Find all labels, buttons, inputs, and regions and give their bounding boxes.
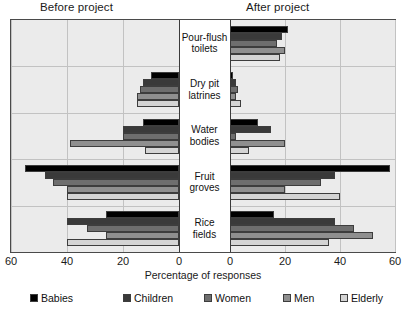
x-tick-label: 60 (389, 255, 401, 267)
category-label-line: bodies (190, 136, 219, 148)
panel-title-after: After project (246, 1, 309, 13)
plot-area: Pour-flushtoiletsDry pitlatrinesWaterbod… (10, 19, 396, 253)
bar-after (230, 26, 288, 33)
bar-after (230, 147, 249, 154)
category-label-line: Dry pit (190, 78, 219, 90)
legend-label: Children (134, 292, 173, 304)
category-label-line: fields (193, 229, 216, 241)
category-label-line: Fruit (195, 171, 215, 183)
legend-item[interactable]: Men (283, 292, 314, 304)
legend-label: Babies (41, 292, 73, 304)
category-label-line: groves (189, 182, 219, 194)
category-label-line: Rice (194, 217, 214, 229)
bar-after (230, 239, 329, 246)
bar-after (230, 47, 285, 54)
zero-axis-right (230, 20, 231, 252)
category-label: Pour-flushtoilets (179, 20, 230, 66)
legend-swatch-icon (123, 294, 131, 302)
legend-swatch-icon (30, 294, 38, 302)
bar-after (230, 193, 340, 200)
bar-after (230, 186, 285, 193)
zero-axis-left (179, 20, 180, 252)
bar-before (151, 72, 179, 79)
x-tick-label: 20 (279, 255, 291, 267)
bar-after (230, 126, 271, 133)
bar-before (143, 119, 179, 126)
bar-after (230, 172, 335, 179)
bar-before (137, 93, 179, 100)
category-label: Fruitgroves (179, 159, 230, 205)
bar-before (145, 147, 179, 154)
category-label-line: latrines (188, 90, 220, 102)
legend-item[interactable]: Elderly (340, 292, 383, 304)
x-tick-label: 40 (334, 255, 346, 267)
gridline-vertical (340, 20, 341, 252)
bar-after (230, 211, 274, 218)
category-label: Waterbodies (179, 113, 230, 159)
legend-label: Men (294, 292, 314, 304)
legend-item[interactable]: Women (204, 292, 251, 304)
bar-before (106, 211, 179, 218)
legend-swatch-icon (340, 294, 348, 302)
x-tick-label: 0 (176, 255, 182, 267)
legend-swatch-icon (204, 294, 212, 302)
bar-after (230, 100, 241, 107)
bar-before (67, 193, 179, 200)
bar-before (143, 79, 179, 86)
x-tick-label: 60 (5, 255, 17, 267)
bar-after (230, 86, 238, 93)
x-axis-title: Percentage of responses (0, 269, 406, 281)
panel-title-before: Before project (40, 1, 113, 13)
legend-item[interactable]: Children (123, 292, 173, 304)
bar-after (230, 232, 373, 239)
legend-label: Elderly (351, 292, 383, 304)
bar-before (123, 133, 179, 140)
bar-before (67, 186, 179, 193)
bar-after (230, 119, 258, 126)
bar-after (230, 140, 285, 147)
bar-before (137, 100, 179, 107)
x-tick-label: 20 (117, 255, 129, 267)
bar-after (230, 33, 282, 40)
x-tick-label: 40 (61, 255, 73, 267)
bar-after (230, 40, 277, 47)
bar-after (230, 218, 335, 225)
gridline-vertical (285, 20, 286, 252)
bar-after (230, 225, 354, 232)
bar-before (106, 232, 179, 239)
legend-swatch-icon (283, 294, 291, 302)
legend-label: Women (215, 292, 251, 304)
x-tick-label: 0 (227, 255, 233, 267)
gridline-vertical (395, 20, 396, 252)
category-label-line: toilets (191, 43, 217, 55)
bar-before (25, 165, 179, 172)
category-label-line: Water (191, 124, 217, 136)
bar-after (230, 54, 280, 61)
chart-container: Before project After project Pour-flusht… (0, 0, 406, 313)
bar-before (123, 126, 179, 133)
bar-after (230, 165, 390, 172)
bar-before (45, 172, 179, 179)
category-label-band: Pour-flushtoiletsDry pitlatrinesWaterbod… (179, 20, 230, 252)
category-label: Ricefields (179, 206, 230, 252)
bar-before (70, 140, 179, 147)
bar-before (67, 239, 179, 246)
gridline-vertical (11, 20, 12, 252)
bar-before (87, 225, 179, 232)
category-label: Dry pitlatrines (179, 66, 230, 112)
legend: BabiesChildrenWomenMenElderly (0, 288, 406, 308)
legend-item[interactable]: Babies (30, 292, 73, 304)
category-label-line: Pour-flush (182, 32, 228, 44)
bar-after (230, 179, 321, 186)
bar-before (140, 86, 179, 93)
bar-before (53, 179, 179, 186)
bar-before (67, 218, 179, 225)
gridline-vertical (67, 20, 68, 252)
